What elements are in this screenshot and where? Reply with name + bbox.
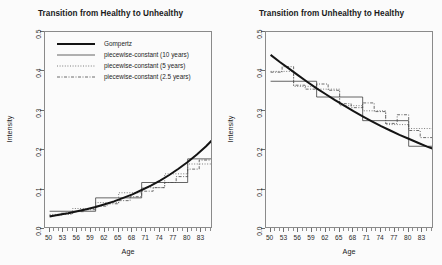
x-tick-mark-minor [279, 228, 280, 231]
series-line [271, 81, 433, 146]
x-tick-mark-minor [385, 228, 386, 231]
x-tick-mark [297, 228, 298, 232]
x-tick-mark [380, 228, 381, 232]
y-tick-label: 0.0 [35, 227, 42, 236]
panel-unhealthy-to-healthy: Transition from Unhealthy to Healthy 0.0… [221, 0, 442, 265]
x-tick-mark [173, 228, 174, 232]
x-tick-label: 50 [266, 234, 273, 241]
x-tick-mark-minor [371, 228, 372, 231]
y-tick-label: 0.3 [35, 108, 42, 117]
x-tick-label: 80 [404, 234, 411, 241]
x-tick-label: 74 [376, 234, 383, 241]
x-tick-mark-minor [81, 228, 82, 231]
x-tick-label: 71 [363, 234, 370, 241]
x-tick-mark [104, 228, 105, 232]
panel-title: Transition from Healthy to Unhealthy [0, 9, 221, 18]
x-tick-mark-minor [67, 228, 68, 231]
y-tick-label: 0.5 [256, 30, 263, 39]
y-axis-label: Intensity [226, 116, 235, 143]
plot-area [265, 31, 433, 228]
x-tick-mark [159, 228, 160, 232]
x-tick-label: 56 [73, 234, 80, 241]
x-tick-mark [131, 228, 132, 232]
x-tick-mark [325, 228, 326, 232]
x-tick-label: 53 [59, 234, 66, 241]
x-tick-mark-minor [205, 228, 206, 231]
y-tick-label: 0.3 [256, 108, 263, 117]
x-tick-mark [352, 228, 353, 232]
x-tick-mark [118, 228, 119, 232]
x-tick-label: 65 [114, 234, 121, 241]
x-tick-mark-minor [85, 228, 86, 231]
x-tick-mark-minor [357, 228, 358, 231]
panel-title: Transition from Unhealthy to Healthy [221, 9, 442, 18]
y-tick-label: 0.5 [35, 30, 42, 39]
x-tick-mark-minor [127, 228, 128, 231]
chart-canvas [266, 32, 433, 228]
x-tick-label: 74 [155, 234, 162, 241]
x-tick-mark-minor [389, 228, 390, 231]
legend-line-swatch [56, 61, 96, 71]
x-axis-label: Age [44, 247, 212, 256]
x-tick-mark [62, 228, 63, 232]
x-tick-label: 83 [418, 234, 425, 241]
x-tick-mark-minor [150, 228, 151, 231]
x-tick-label: 68 [128, 234, 135, 241]
y-tick-label: 0.2 [256, 148, 263, 157]
x-tick-label: 71 [142, 234, 149, 241]
x-tick-mark-minor [113, 228, 114, 231]
x-tick-mark-minor [72, 228, 73, 231]
x-tick-label: 56 [294, 234, 301, 241]
x-tick-mark-minor [122, 228, 123, 231]
x-tick-mark-minor [53, 228, 54, 231]
x-tick-label: 77 [169, 234, 176, 241]
x-tick-label: 59 [307, 234, 314, 241]
x-tick-label: 50 [45, 234, 52, 241]
x-tick-label: 68 [349, 234, 356, 241]
x-tick-mark [394, 228, 395, 232]
x-tick-mark-minor [431, 228, 432, 231]
legend-item: piecewise-constant (5 years) [56, 60, 206, 71]
x-tick-label: 53 [280, 234, 287, 241]
x-tick-mark [366, 228, 367, 232]
legend-label: Gompertz [96, 40, 132, 47]
y-tick-label: 0.1 [35, 187, 42, 196]
x-tick-mark-minor [196, 228, 197, 231]
figure-container: Transition from Healthy to Unhealthy 0.0… [0, 0, 442, 265]
x-tick-mark-minor [288, 228, 289, 231]
x-tick-label: 80 [183, 234, 190, 241]
x-tick-mark-minor [210, 228, 211, 231]
y-tick-label: 0.0 [256, 227, 263, 236]
y-tick-label: 0.1 [256, 187, 263, 196]
x-tick-mark [90, 228, 91, 232]
x-tick-mark-minor [362, 228, 363, 231]
legend-item: piecewise-constant (2.5 years) [56, 71, 206, 82]
x-tick-mark [283, 228, 284, 232]
x-tick-mark-minor [177, 228, 178, 231]
x-tick-label: 65 [335, 234, 342, 241]
x-tick-mark [76, 228, 77, 232]
x-tick-label: 62 [100, 234, 107, 241]
x-tick-mark [270, 228, 271, 232]
x-tick-mark-minor [99, 228, 100, 231]
x-tick-label: 83 [197, 234, 204, 241]
panel-healthy-to-unhealthy: Transition from Healthy to Unhealthy 0.0… [0, 0, 221, 265]
y-tick-label: 0.2 [35, 148, 42, 157]
x-tick-mark [49, 228, 50, 232]
x-tick-mark [200, 228, 201, 232]
x-tick-mark-minor [168, 228, 169, 231]
x-tick-mark-minor [108, 228, 109, 231]
legend-label: piecewise-constant (10 years) [96, 51, 189, 58]
x-tick-label: 59 [86, 234, 93, 241]
legend-item: piecewise-constant (10 years) [56, 49, 206, 60]
x-axis: Age 505356596265687174778083 [44, 228, 212, 264]
x-tick-mark-minor [58, 228, 59, 231]
x-axis-label: Age [265, 247, 433, 256]
y-tick-label: 0.4 [35, 69, 42, 78]
x-tick-mark-minor [191, 228, 192, 231]
legend: Gompertzpiecewise-constant (10 years)pie… [56, 38, 206, 82]
x-tick-mark-minor [343, 228, 344, 231]
x-tick-mark [339, 228, 340, 232]
x-tick-mark-minor [398, 228, 399, 231]
x-tick-mark-minor [154, 228, 155, 231]
